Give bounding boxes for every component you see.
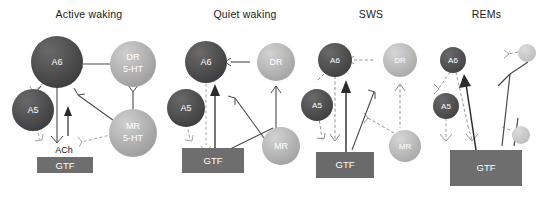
node-label-MR: MR [399,142,412,151]
gtf-box-rems[interactable]: GTF [450,150,522,186]
node-label-A6: A6 [200,57,211,67]
node-A5-active-waking[interactable]: A5 [12,89,54,131]
activity-arrow-up-quiet-waking [210,84,220,148]
activity-arrow-up-sws [341,80,351,152]
node-DR-quiet-waking[interactable]: DR [257,43,295,81]
connections-solid-sws [352,90,375,150]
gtf-box-active-waking[interactable]: GTF [37,157,93,173]
gtf-box-label: GTF [477,162,496,173]
node-label-A6: A6 [448,56,458,65]
label-ach: ACh [55,145,73,155]
node-label-A6: A6 [330,56,340,65]
node-label-MR: MR [126,121,140,131]
node-A6-rems[interactable]: A6 [440,47,466,73]
node-label-DR: DR [394,56,406,65]
figure-canvas: Active waking [0,0,543,197]
node-A6-quiet-waking[interactable]: A6 [185,41,227,83]
node-label-A5: A5 [180,103,191,113]
node-A6-active-waking[interactable]: A6 [31,36,83,88]
node-label-DR: DR [127,52,140,62]
panel-sws: SWS [312,0,430,197]
node-DR-active-waking[interactable]: DR 5-HT [110,41,156,87]
node-DR-rems[interactable] [518,44,536,62]
gtf-box-label: GTF [56,160,75,171]
gtf-box-sws[interactable]: GTF [316,152,374,178]
node-sublabel-DR: 5-HT [123,64,144,74]
node-sublabel-MR: 5-HT [123,133,144,143]
node-MR-rems[interactable] [512,126,530,144]
node-A6-sws[interactable]: A6 [318,43,352,77]
panel-active-waking: Active waking [0,0,178,197]
node-DR-sws[interactable]: DR [383,43,417,77]
panel-quiet-waking: Quiet waking [178,0,312,197]
node-MR-sws[interactable]: MR [389,130,421,162]
gtf-box-quiet-waking[interactable]: GTF [182,148,244,173]
node-A5-sws[interactable]: A5 [301,89,333,121]
node-label-MR: MR [274,141,288,151]
node-label-A6: A6 [51,57,62,67]
gtf-box-label: GTF [336,159,355,170]
node-MR-active-waking[interactable]: MR 5-HT [109,109,157,157]
panel-rems: REMs [430,0,543,197]
node-A5-rems[interactable]: A5 [433,93,459,119]
node-MR-quiet-waking[interactable]: MR [262,127,300,165]
node-label-A5: A5 [441,102,451,111]
node-label-A5: A5 [27,105,38,115]
gtf-box-label: GTF [204,155,223,166]
activity-arrow-up-active-waking [64,106,72,136]
node-A5-quiet-waking[interactable]: A5 [167,89,205,127]
node-label-A5: A5 [312,101,322,110]
node-label-DR: DR [270,57,283,67]
